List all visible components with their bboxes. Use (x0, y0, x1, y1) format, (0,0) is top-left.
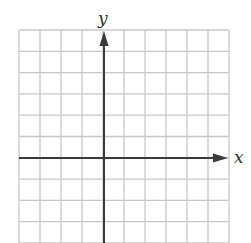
y-axis-label: y (98, 10, 108, 27)
x-axis-arrow-icon (213, 154, 228, 163)
y-axis-arrow-icon (100, 31, 109, 46)
grid-lines (19, 30, 229, 243)
x-axis-label: x (234, 149, 244, 166)
coordinate-grid (0, 0, 251, 243)
